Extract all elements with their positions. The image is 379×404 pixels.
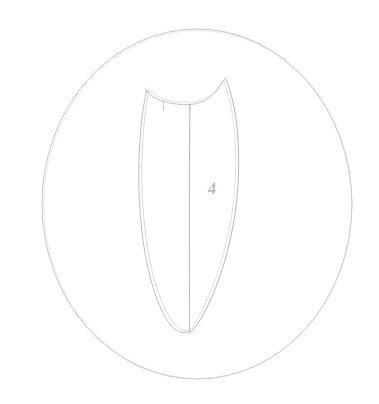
annotation-number-4: 4: [198, 175, 225, 202]
blade-top-notch-echo: [148, 77, 227, 102]
blade-right-inner-contour: [190, 81, 236, 331]
blade-top-notch-edge: [147, 79, 226, 105]
outer-circle-echo: [44, 31, 352, 379]
blade-right-outer-contour: [190, 79, 239, 333]
blade-midrib-line: [189, 104, 190, 332]
line-drawing: [0, 0, 379, 404]
blade-left-outer-contour: [139, 92, 190, 333]
drawing-canvas: 4: [0, 0, 379, 404]
blade-left-inner-contour: [142, 93, 190, 331]
